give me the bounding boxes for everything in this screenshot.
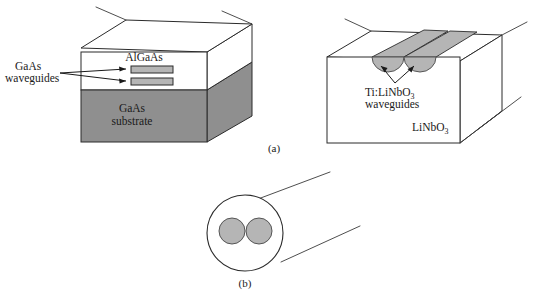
fiber-core-1 [219, 218, 245, 244]
twin-core-fiber [207, 172, 360, 271]
gaas-substrate-label-line1: GaAs [119, 102, 146, 114]
caption-b: (b) [239, 277, 252, 290]
linbo3-structure: Ti:LiNbO3 waveguides LiNbO3 [327, 19, 527, 143]
fiber-upper-edge [250, 172, 330, 202]
gaas-waveguide-bar-2 [131, 78, 173, 85]
linbo3-construction-line-right [502, 22, 527, 35]
algaas-label: AlGaAs [125, 51, 163, 63]
gaas-waveguides-label-line1: GaAs [15, 60, 42, 72]
linbo3-construction-line-left [345, 19, 371, 31]
gaas-waveguides-label-line2: waveguides [5, 72, 60, 85]
linbo3-bulk-label-text: LiNbO [412, 121, 445, 133]
gaas-substrate-label-line2: substrate [112, 115, 153, 127]
figure-svg: AlGaAs GaAs waveguides GaAs substrate [0, 0, 541, 293]
gaas-construction-line-left [96, 7, 126, 20]
gaas-algaas-structure: AlGaAs GaAs waveguides GaAs substrate [5, 7, 252, 142]
linbo3-bulk-label-subscript: 3 [445, 127, 449, 136]
ti-linbo3-label-text: Ti:LiNbO [365, 86, 411, 98]
ti-linbo3-waveguides-label-line2: waveguides [365, 98, 420, 111]
figure-container: AlGaAs GaAs waveguides GaAs substrate [0, 0, 541, 293]
fiber-lower-edge [281, 226, 360, 262]
gaas-waveguide-bar-1 [131, 66, 173, 73]
fiber-core-2 [246, 218, 272, 244]
gaas-construction-line-right [222, 11, 252, 24]
caption-a: (a) [268, 142, 281, 155]
